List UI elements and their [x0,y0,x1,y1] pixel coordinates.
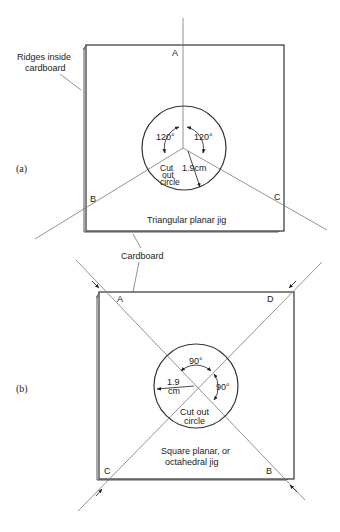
angle-left-label: 120° [156,132,175,142]
panel-a-label: (a) [16,163,27,175]
angle-top-label: 90° [189,356,203,366]
point-c-label: C [274,192,281,202]
ridges-leader-line [60,74,81,90]
point-a-label-b: A [117,294,123,304]
square-jig-title-line1: Square planar, or [161,446,230,456]
cardboard-label: Cardboard [121,251,164,261]
circle-label-b-line2: circle [184,416,205,426]
point-b-label-b: B [266,466,272,476]
angle-right-label: 120° [194,132,213,142]
point-c-label-b: C [104,466,111,476]
point-b-label: B [90,194,96,204]
cardboard-leader-line-bottom [133,262,139,292]
ridges-label-line2: cardboard [25,63,66,73]
radius-label-a: 1.9cm [182,163,207,173]
ridges-label-line1: Ridges inside [17,52,71,62]
point-d-label-b: D [267,294,274,304]
cardboard-board-a [84,45,284,232]
triangular-jig-title: Triangular planar jig [147,215,226,225]
jig-diagram: 120° 120° 1.9cm Cut out circle A B C Tri… [0,0,340,532]
angle-right-label-b: 90° [216,382,230,392]
panel-b-label: (b) [16,383,28,395]
point-a-label: A [172,48,178,58]
circle-label-line3: circle [160,177,180,187]
panel-a-triangular-jig: 120° 120° 1.9cm Cut out circle A B C Tri… [16,18,327,292]
square-jig-title-line2: octahedral jig [165,457,219,467]
cardboard-leader-line-top [133,234,141,248]
panel-b-square-planar-jig: 90° 90° 1.9 cm Cut out circle A D C B Sq… [16,260,322,511]
radius-label-b-line2: cm [168,386,180,396]
